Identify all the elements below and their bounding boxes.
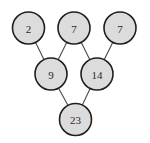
node-n2[interactable]: 2 [13,12,45,44]
node-label-n9: 9 [48,69,54,81]
node-n23[interactable]: 23 [60,104,92,136]
node-n7a[interactable]: 7 [58,12,90,44]
edge-n7b-to-n14 [104,42,113,60]
diagram-canvas: 27791423 [0,0,150,143]
node-label-n14: 14 [92,69,104,81]
node-n7b[interactable]: 7 [104,12,136,44]
node-label-n2: 2 [26,23,32,35]
nodes-layer: 27791423 [13,12,137,136]
edge-n14-to-n23 [82,88,90,105]
node-label-n7b: 7 [117,23,123,35]
edge-n2-to-n9 [35,42,44,60]
edge-n7a-to-n14 [81,42,90,60]
number-pyramid-diagram: 27791423 [0,0,150,143]
edge-n9-to-n23 [58,88,68,106]
node-label-n7a: 7 [71,23,77,35]
node-n14[interactable]: 14 [81,58,113,90]
node-n9[interactable]: 9 [35,58,67,90]
node-label-n23: 23 [70,114,82,126]
edge-n7a-to-n9 [58,42,67,60]
